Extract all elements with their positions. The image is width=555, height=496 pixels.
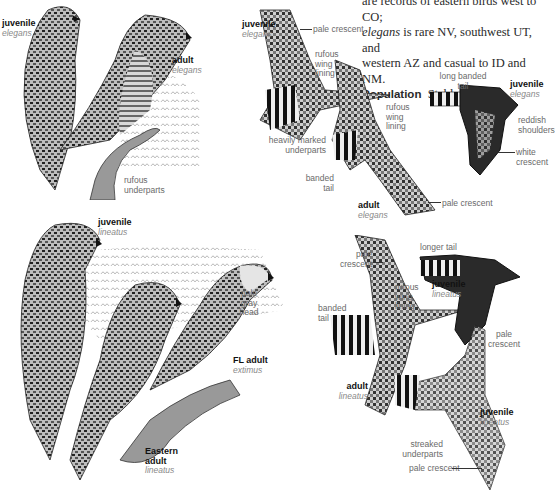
label-heavily-marked-underparts: heavily marked underparts (240, 136, 326, 155)
label-pale-crescent-1: pale crescent (313, 25, 364, 35)
label-juvenile-elegans-perched: juvenile elegans (2, 19, 36, 38)
label-pale-crescent-lineatus-dorsal: pale crescent (488, 330, 520, 349)
label-juvenile-lineatus-dorsal: juvenile lineatus (432, 280, 466, 299)
label-banded-tail-1: banded tail (300, 174, 334, 193)
leader-line (428, 202, 441, 203)
label-juvenile-lineatus-perched: juvenile lineatus (98, 218, 132, 237)
label-eastern-adult-lineatus: Eastern adult lineatus (145, 447, 178, 476)
leader-line (300, 29, 312, 30)
label-reddish-shoulders: reddish shoulders (518, 116, 554, 135)
flight-elegans-juvenile-dorsal-illustration (430, 80, 520, 175)
label-adult-elegans-perched: adult elegans (172, 56, 202, 75)
label-rufous-wing-lining-1: rufous wing lining (315, 50, 345, 79)
label-banded-tail-lineatus: banded tail (318, 304, 348, 323)
label-rufous-wing-lining-2: rufous wing lining (386, 103, 416, 132)
label-pale-crescent-2: pale crescent (442, 199, 493, 209)
label-adult-elegans-flight: adult elegans (358, 201, 388, 220)
leader-line (498, 152, 515, 153)
label-white-crescent: white crescent (516, 148, 552, 167)
leader-line (373, 262, 383, 263)
label-juvenile-lineatus-ventral: juvenile lineatus (480, 408, 514, 427)
label-pale-gray-head: pale gray head (232, 289, 266, 318)
label-adult-lineatus-flight: adult lineatus (330, 382, 368, 401)
label-rufous-underparts: rufous underparts (124, 176, 164, 195)
label-streaked-underparts: streaked underparts (395, 440, 443, 459)
label-juvenile-elegans-dorsal: juvenile elegans (510, 80, 544, 99)
label-pale-crescent-lineatus-adult: pale crescent (340, 250, 372, 269)
label-long-banded-tail: long banded tail (438, 72, 488, 91)
label-rufous-wing-lining-lineatus: rufous wing lining (395, 283, 425, 312)
label-juvenile-elegans-flight: juvenile elegans (242, 20, 276, 39)
label-fl-adult-extimus: FL adult extimus (233, 356, 268, 375)
leader-line (452, 468, 482, 469)
label-longer-tail: longer tail (420, 243, 457, 253)
